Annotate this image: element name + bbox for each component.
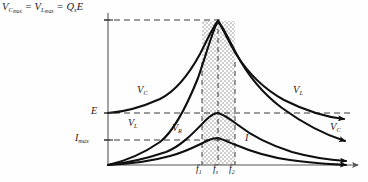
curve-label-vc-right: VCVC [330, 122, 341, 133]
curve-label-vr: VRVR [172, 123, 182, 133]
curve-label-vl-right: VLVL [293, 85, 303, 96]
y-axis-label-E: EE [91, 106, 97, 116]
max-voltage-annotation: VCmax = VLmax = QsE VCmax = VLmax = QsE [2, 2, 83, 13]
resonance-curve-figure: VCmax = VLmax = QsE VCmax = VLmax = QsE … [0, 0, 368, 182]
y-axis-label-imax: ImaxImax [75, 133, 89, 143]
x-axis-tick-fs: fsfs [213, 165, 218, 175]
plot-canvas [0, 0, 368, 182]
curve-label-vc-left: VCVC [137, 85, 148, 96]
curve-label-vl-left: VLVL [128, 118, 138, 128]
x-axis-tick-f2: f2f2 [229, 165, 235, 175]
x-axis-tick-f1: f1f1 [196, 165, 202, 175]
curve-label-i: II [245, 133, 248, 143]
